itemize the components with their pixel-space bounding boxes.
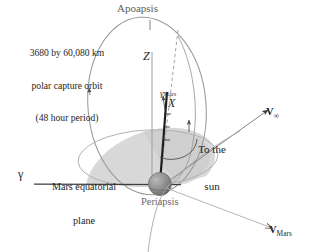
gamma-mars-label: γMars bbox=[160, 88, 176, 98]
periapsis-label: Periapsis bbox=[141, 196, 179, 208]
v-mars-label: VMars bbox=[269, 224, 292, 238]
v-infinity-label: V∞ bbox=[266, 106, 279, 120]
apoapsis-label: Apoapsis bbox=[117, 2, 158, 14]
v-infinity-subscript: ∞ bbox=[274, 111, 279, 120]
equatorial-plane-line-1: Mars equatorial bbox=[34, 181, 134, 192]
equatorial-plane-label: Mars equatorial plane bbox=[34, 158, 134, 249]
gamma-mars-subscript: Mars bbox=[164, 90, 177, 97]
equatorial-plane-line-2: plane bbox=[34, 215, 134, 226]
orbit-description-annotation: 3680 by 60,080 km polar capture orbit (4… bbox=[8, 27, 126, 145]
to-the-sun-line-2: sun bbox=[186, 180, 238, 192]
mars-planet bbox=[149, 173, 172, 196]
orbit-description-line-1: 3680 by 60,080 km bbox=[8, 48, 126, 59]
z-axis-label: Z bbox=[143, 50, 150, 63]
gamma-axis-label: γ bbox=[18, 168, 23, 181]
v-mars-subscript: Mars bbox=[277, 229, 292, 238]
orbit-diagram-figure: 3680 by 60,080 km polar capture orbit (4… bbox=[0, 0, 310, 252]
orbit-description-line-3: (48 hour period) bbox=[8, 113, 126, 124]
v-infinity-symbol: V bbox=[266, 106, 274, 117]
x-axis-label: X bbox=[168, 97, 175, 110]
to-the-sun-label: To the sun bbox=[186, 118, 238, 217]
orbit-description-line-2: polar capture orbit bbox=[8, 81, 126, 92]
v-mars-symbol: V bbox=[269, 224, 277, 235]
to-the-sun-line-1: To the bbox=[186, 143, 238, 155]
